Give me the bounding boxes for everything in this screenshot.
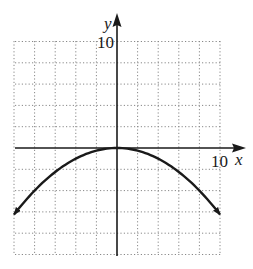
y-axis-label: y	[102, 14, 112, 33]
x-tick-label: 10	[211, 152, 228, 171]
y-axis-arrow-icon	[113, 13, 122, 27]
x-axis-label: x	[234, 150, 243, 169]
parabola-chart: y 10 10 x	[0, 0, 253, 269]
y-tick-label: 10	[97, 33, 114, 52]
